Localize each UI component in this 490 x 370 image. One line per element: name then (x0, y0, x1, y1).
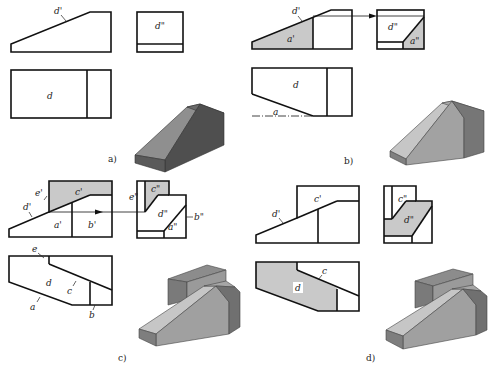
panel-a-front-view (11, 12, 111, 52)
label-c-side-d: d" (158, 209, 168, 219)
label-a-side-d: d" (155, 21, 165, 31)
label-c-top-d: d (46, 278, 52, 288)
panel-a-isometric-solid (135, 104, 224, 172)
label-c-front-a: a' (54, 220, 62, 230)
panel-a: d' d" d a) (11, 6, 224, 172)
label-c-side-c: c" (151, 184, 160, 194)
label-d-top-d: d (295, 283, 301, 293)
label-c-side-e: e" (129, 192, 138, 202)
label-c-front-c: c' (75, 187, 83, 197)
label-c-front-d: d' (23, 202, 31, 212)
label-a-front-d: d' (54, 6, 62, 16)
label-d-side-c: c" (398, 194, 407, 204)
panel-d-isometric-solid (386, 269, 487, 349)
label-b-side-a: a" (410, 36, 420, 46)
label-c-top-b: b (89, 310, 95, 320)
label-a-top-d: d (47, 91, 53, 101)
label-c-front-e: e' (35, 188, 43, 198)
three-view-diagram: d' d" d a) d' a' (0, 0, 490, 370)
label-c-top-a: a (30, 302, 35, 312)
caption-a: a) (108, 154, 117, 164)
panel-c-top-view (9, 256, 112, 305)
caption-d: d) (366, 353, 375, 363)
caption-b: b) (344, 156, 353, 166)
label-c-side-a: a" (168, 222, 178, 232)
panel-a-side-view (137, 12, 183, 52)
panel-b-isometric-solid (390, 101, 484, 165)
caption-c: c) (118, 353, 127, 363)
label-c-top-e: e (32, 244, 37, 254)
panel-c-isometric-solid (139, 265, 240, 346)
label-d-side-d: d" (404, 215, 414, 225)
label-d-front-c: c' (314, 194, 322, 204)
panel-d: c' d' c" d" c d (256, 186, 487, 363)
label-b-top-d: d (293, 80, 299, 90)
label-c-side-b: b" (194, 212, 204, 222)
label-b-front-a: a' (287, 34, 295, 44)
label-c-top-c: c (67, 286, 72, 296)
panel-b-top-view (252, 68, 352, 116)
label-d-top-c: c (322, 266, 327, 276)
panel-a-top-view (11, 70, 111, 118)
label-b-front-d: d' (292, 6, 300, 16)
label-d-front-d: d' (272, 209, 280, 219)
label-b-top-a: a (273, 107, 278, 117)
label-c-front-b: b' (88, 220, 96, 230)
panel-b: d' a' d" a" d a b) (252, 6, 484, 166)
panel-c: e' c' d' a' b' e" c" d" a" b" e d c (9, 181, 240, 363)
label-b-side-d: d" (388, 22, 398, 32)
